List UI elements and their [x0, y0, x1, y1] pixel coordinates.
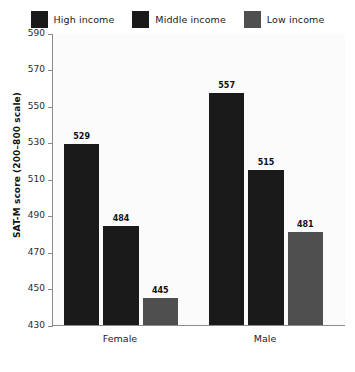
legend-swatch-icon: [31, 11, 48, 28]
bar-value-label: 529: [73, 132, 90, 141]
legend-label: Middle income: [155, 14, 226, 25]
x-axis-label: Male: [254, 333, 277, 344]
bar-value-label: 445: [152, 286, 169, 295]
legend-item-high-income[interactable]: High income: [31, 11, 115, 28]
bar[interactable]: 515: [248, 170, 283, 325]
tick-mark: [48, 107, 53, 108]
y-axis-tick-label: 550: [28, 101, 45, 111]
legend-label: Low income: [267, 14, 325, 25]
sat-m-income-bar-chart: High income Middle income Low income SAT…: [0, 0, 355, 372]
chart-legend: High income Middle income Low income: [0, 8, 355, 30]
legend-swatch-icon: [244, 11, 261, 28]
bar[interactable]: 529: [64, 144, 99, 325]
tick-mark: [48, 70, 53, 71]
tick-mark: [48, 180, 53, 181]
x-axis-label: Female: [103, 333, 137, 344]
y-axis-tick-label: 530: [28, 137, 45, 147]
legend-item-middle-income[interactable]: Middle income: [132, 11, 226, 28]
y-axis-tick-label: 450: [28, 283, 45, 293]
bar-value-label: 557: [218, 81, 235, 90]
legend-label: High income: [54, 14, 115, 25]
tick-mark: [48, 253, 53, 254]
bar-value-label: 515: [258, 158, 275, 167]
legend-swatch-icon: [132, 11, 149, 28]
tick-mark: [48, 34, 53, 35]
y-axis-tick-label: 490: [28, 210, 45, 220]
tick-mark: [48, 143, 53, 144]
tick-mark: [48, 216, 53, 217]
bar-value-label: 484: [113, 214, 130, 223]
tick-mark: [48, 326, 53, 327]
y-axis-tick-label: 590: [28, 28, 45, 38]
bar-value-label: 481: [297, 220, 314, 229]
plot-area: 590570550530510490470450430 529484445557…: [52, 34, 345, 326]
bar[interactable]: 557: [209, 93, 244, 325]
legend-item-low-income[interactable]: Low income: [244, 11, 325, 28]
y-axis-tick-label: 570: [28, 64, 45, 74]
y-axis-title: SAT-M score (200–800 scale): [12, 85, 22, 245]
y-axis-tick-label: 470: [28, 247, 45, 257]
y-axis-tick-label: 430: [28, 320, 45, 330]
bar[interactable]: 481: [288, 232, 323, 325]
y-axis-tick-label: 510: [28, 174, 45, 184]
tick-mark: [48, 289, 53, 290]
bar[interactable]: 484: [103, 226, 138, 325]
bar[interactable]: 445: [143, 298, 178, 325]
